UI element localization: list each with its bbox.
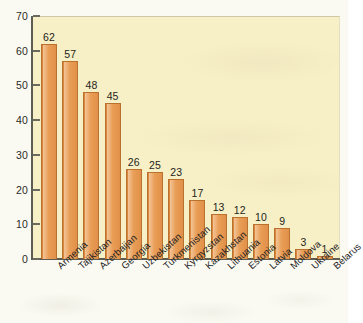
y-axis-tick-labels: 010203040506070 xyxy=(0,0,28,323)
bar-value-label: 62 xyxy=(35,31,63,43)
y-axis-tick-label: 70 xyxy=(4,10,28,22)
bar[interactable] xyxy=(62,61,78,259)
y-axis-tick-label: 0 xyxy=(4,253,28,265)
bar-value-label: 23 xyxy=(162,166,190,178)
bar-value-label: 17 xyxy=(183,187,211,199)
y-axis-tick-label: 40 xyxy=(4,114,28,126)
y-axis-tick-label: 10 xyxy=(4,218,28,230)
bar-value-label: 57 xyxy=(56,48,84,60)
y-axis-tick-label: 30 xyxy=(4,149,28,161)
y-axis-tick-label: 50 xyxy=(4,79,28,91)
bars-layer: 6257484526252317131210931 xyxy=(32,16,340,259)
bar-value-label: 9 xyxy=(268,215,296,227)
bar[interactable] xyxy=(105,103,121,259)
y-axis-tick-label: 20 xyxy=(4,184,28,196)
y-axis-tick-label: 60 xyxy=(4,45,28,57)
bar[interactable] xyxy=(41,44,57,259)
bar-value-label: 45 xyxy=(99,90,127,102)
bar[interactable] xyxy=(83,92,99,259)
